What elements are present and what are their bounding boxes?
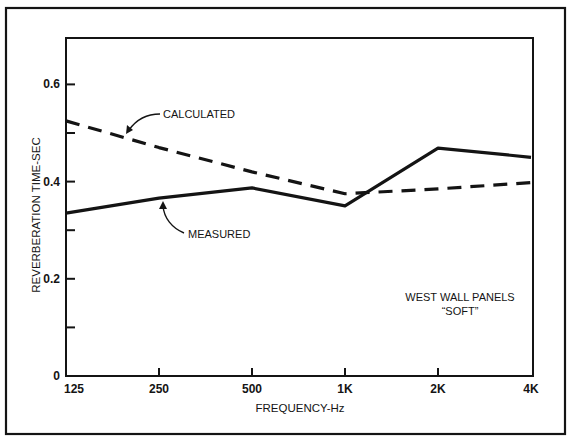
x-tick-label: 4K	[523, 382, 539, 396]
x-tick-label: 125	[64, 382, 84, 396]
chart-canvas: 00.20.40.6 1252505001K2K4K REVERBERATION…	[0, 0, 570, 440]
y-axis-title: REVERBERATION TIME-SEC	[30, 137, 42, 293]
measured-label: MEASURED	[188, 228, 250, 240]
x-tick-label: 500	[242, 382, 262, 396]
measured-arrow-icon	[163, 206, 184, 233]
panel-note-line2: “SOFT”	[442, 305, 479, 317]
panel-note-line1: WEST WALL PANELS	[405, 291, 514, 303]
plot-frame	[66, 38, 533, 376]
y-tick-label: 0.6	[43, 77, 60, 91]
y-tick-label: 0	[53, 369, 60, 383]
series-line-calculated	[66, 121, 531, 194]
reverberation-chart: 00.20.40.6 1252505001K2K4K REVERBERATION…	[0, 0, 570, 440]
calculated-label: CALCULATED	[163, 108, 235, 120]
calculated-arrow-icon	[129, 114, 160, 130]
y-tick-label: 0.2	[43, 272, 60, 286]
series-line-measured	[66, 148, 531, 213]
series-layer	[66, 121, 531, 213]
x-tick-label: 250	[149, 382, 169, 396]
y-tick-label: 0.4	[43, 175, 60, 189]
x-tick-label: 2K	[430, 382, 446, 396]
measured-arrowhead-icon	[159, 201, 167, 209]
x-axis-title: FREQUENCY-Hz	[255, 402, 344, 414]
x-axis-ticks: 1252505001K2K4K	[64, 368, 539, 396]
outer-frame	[6, 8, 565, 434]
x-tick-label: 1K	[337, 382, 353, 396]
